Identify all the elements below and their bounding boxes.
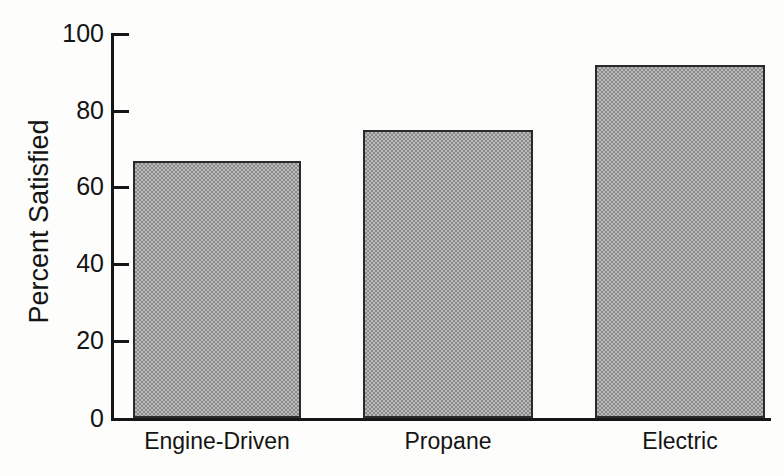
y-tick-mark-60 bbox=[114, 186, 129, 189]
bar-electric bbox=[595, 65, 765, 418]
y-tick-mark-20 bbox=[114, 340, 129, 343]
x-category-label-electric: Electric bbox=[595, 428, 765, 454]
y-tick-label-100: 100 bbox=[34, 21, 104, 46]
x-axis-baseline bbox=[111, 418, 771, 421]
y-tick-label-40-wrap: 40 bbox=[28, 251, 104, 277]
y-tick-label-100-wrap: 100 bbox=[28, 21, 104, 47]
bar-engine-driven bbox=[133, 161, 301, 418]
plot-area: Percent Satisfied 100 80 60 40 20 0 bbox=[0, 0, 784, 476]
y-axis-title: Percent Satisfied bbox=[26, 92, 53, 352]
y-tick-mark-40 bbox=[114, 263, 129, 266]
y-tick-label-80: 80 bbox=[34, 98, 104, 123]
y-tick-label-20: 20 bbox=[34, 328, 104, 353]
y-tick-mark-100 bbox=[114, 33, 129, 36]
y-tick-label-0: 0 bbox=[34, 406, 104, 431]
y-tick-label-80-wrap: 80 bbox=[28, 98, 104, 124]
y-tick-label-20-wrap: 20 bbox=[28, 328, 104, 354]
bar-propane bbox=[363, 130, 533, 418]
y-tick-label-40: 40 bbox=[34, 251, 104, 276]
y-tick-label-60: 60 bbox=[34, 174, 104, 199]
x-category-label-engine-driven: Engine-Driven bbox=[133, 428, 301, 454]
y-tick-label-0-wrap: 0 bbox=[28, 406, 104, 432]
bar-chart-figure: Percent Satisfied 100 80 60 40 20 0 bbox=[0, 0, 784, 476]
y-axis-spine bbox=[111, 33, 114, 420]
y-tick-mark-80 bbox=[114, 110, 129, 113]
x-category-label-propane: Propane bbox=[363, 428, 533, 454]
y-tick-label-60-wrap: 60 bbox=[28, 174, 104, 200]
